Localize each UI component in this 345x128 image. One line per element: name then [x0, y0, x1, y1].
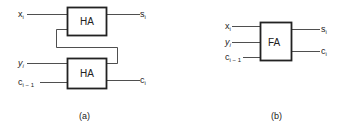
fa-label: FA — [268, 37, 281, 48]
yi-label: yi — [17, 58, 25, 69]
fa-yi-label: yi — [224, 37, 232, 48]
ci-label: ci — [140, 75, 146, 86]
caption-a: (a) — [79, 111, 90, 121]
caption-b: (b) — [271, 111, 282, 121]
fa-xi-label: xi — [225, 21, 231, 32]
fa-si-label: si — [321, 24, 327, 35]
xi-label: xi — [18, 9, 24, 20]
si-label: si — [140, 9, 146, 20]
ci-1-label: ci − 1 — [18, 77, 35, 88]
fa-ci-label: ci — [321, 46, 327, 57]
half-adder-full-adder-diagram: HA HA xi yi ci − 1 si ci (a) FA xi yi ci… — [0, 0, 345, 128]
top-ha-label: HA — [80, 16, 94, 27]
bottom-ha-label: HA — [80, 68, 94, 79]
fa-ci-1-label: ci − 1 — [225, 52, 242, 63]
